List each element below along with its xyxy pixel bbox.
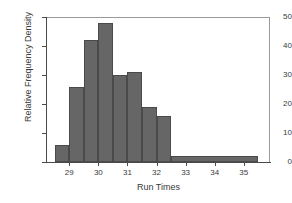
- y-tick-label: 40: [258, 42, 292, 50]
- histogram-bar: [127, 72, 142, 162]
- x-tick-mark: [98, 162, 99, 166]
- histogram-bar: [157, 116, 172, 162]
- histogram-bar: [55, 145, 70, 162]
- y-tick-mark: [42, 46, 46, 47]
- histogram-bar: [98, 23, 113, 162]
- x-tick-mark: [215, 162, 216, 166]
- y-tick-label: 0: [258, 158, 292, 166]
- x-tick-mark: [186, 162, 187, 166]
- y-tick-mark: [42, 17, 46, 18]
- histogram-figure: 01020304050 29303132333435 Run Times Rel…: [0, 0, 292, 203]
- y-tick-mark: [42, 104, 46, 105]
- histogram-bar: [113, 75, 128, 162]
- y-tick-label: 10: [258, 129, 292, 137]
- y-tick-mark: [42, 75, 46, 76]
- x-tick-mark: [244, 162, 245, 166]
- x-tick-label: 31: [115, 168, 139, 177]
- bar-series: [46, 17, 270, 162]
- y-tick-label: 50: [258, 13, 292, 21]
- y-axis-title: Relative Frequency Density: [23, 0, 33, 147]
- x-axis-line: [46, 162, 271, 163]
- x-tick-label: 33: [174, 168, 198, 177]
- histogram-bar: [69, 87, 84, 162]
- y-tick-mark: [42, 133, 46, 134]
- x-axis-title: Run Times: [46, 182, 271, 192]
- x-tick-label: 29: [57, 168, 81, 177]
- x-tick-label: 35: [232, 168, 256, 177]
- x-tick-label: 30: [86, 168, 110, 177]
- x-tick-mark: [127, 162, 128, 166]
- histogram-bar: [142, 107, 157, 162]
- y-tick-mark: [42, 162, 46, 163]
- y-tick-label: 20: [258, 100, 292, 108]
- y-tick-label: 30: [258, 71, 292, 79]
- x-tick-label: 34: [203, 168, 227, 177]
- histogram-bar: [84, 40, 99, 162]
- x-tick-label: 32: [145, 168, 169, 177]
- x-tick-mark: [69, 162, 70, 166]
- x-tick-mark: [157, 162, 158, 166]
